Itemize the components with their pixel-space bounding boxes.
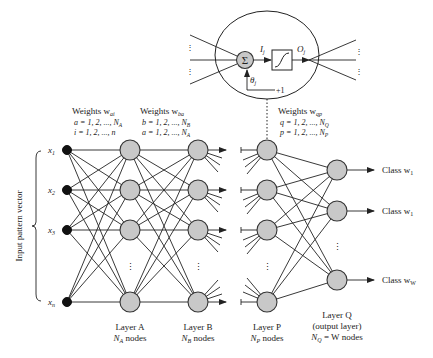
neuron-node [188, 180, 208, 200]
output-labels: Class w1 Class w1 Class wW [382, 165, 416, 286]
neuron-detail: ⋮ ⋮ Σ Ij Oj ⋮ ⋮ θj +1 [186, 11, 363, 141]
svg-text:a = 1, 2, ..., NA: a = 1, 2, ..., NA [74, 118, 123, 128]
output-label: Oj [297, 44, 306, 55]
ellipsis-icon: ⋮ [126, 262, 135, 272]
neuron-node [327, 201, 347, 221]
neuron-node [120, 292, 140, 312]
class-label: Class wW [382, 275, 416, 286]
neuron-node [257, 180, 277, 200]
input-brace [32, 151, 41, 301]
svg-text:Weights wai: Weights wai [72, 106, 115, 117]
svg-text:Layer Q: Layer Q [322, 310, 352, 320]
weights-label-ba: Weights wba b = 1, 2, ..., NB a = 1, 2, … [140, 106, 191, 138]
weights-label-qp: Weights wqp q = 1, 2, ..., NQ p = 1, 2, … [278, 106, 329, 138]
class-label: Class w1 [382, 206, 413, 217]
ellipsis-icon: ⋮ [263, 262, 272, 272]
neuron-node [188, 220, 208, 240]
ellipsis-icon: ⋮ [355, 47, 363, 56]
neuron-node [120, 180, 140, 200]
svg-text:NB nodes: NB nodes [181, 333, 215, 344]
layer-q-label: Layer Q (output layer) NQ = W nodes [310, 310, 363, 343]
svg-text:p = 1, 2, ..., NP: p = 1, 2, ..., NP [279, 128, 329, 138]
ellipsis-icon: ⋮ [355, 67, 363, 76]
input-label: x3 [47, 225, 55, 236]
input-node [63, 298, 72, 307]
net-input-label: Ij [259, 44, 265, 55]
layer-p-nodes: ⋮ [257, 140, 277, 312]
bias-value: +1 [276, 86, 285, 95]
neuron-node [257, 292, 277, 312]
edges-outputs [347, 170, 374, 280]
neuron-node [257, 220, 277, 240]
ellipsis-icon: ⋮ [194, 262, 203, 272]
neuron-node [188, 292, 208, 312]
neural-network-diagram: ⋮ ⋮ Σ Ij Oj ⋮ ⋮ θj +1 Weights wai a = 1,… [0, 0, 433, 358]
edges-a-to-b [130, 150, 198, 302]
input-layer: x1 x2 x3 xn Input pattern vector [14, 145, 72, 308]
svg-text:b = 1, 2, ..., NB: b = 1, 2, ..., NB [142, 118, 191, 128]
svg-text:Layer A: Layer A [115, 322, 145, 332]
input-label: xn [47, 297, 55, 308]
class-label: Class w1 [382, 165, 413, 176]
svg-text:q = 1, 2, ..., NQ: q = 1, 2, ..., NQ [280, 118, 329, 128]
neuron-node [188, 140, 208, 160]
input-vector-label: Input pattern vector [14, 191, 24, 262]
bias-label: θj [250, 75, 256, 86]
layer-a-label: Layer A NA nodes [113, 322, 147, 344]
input-node [63, 146, 72, 155]
layer-b-label: Layer B NB nodes [181, 322, 215, 344]
input-node [63, 186, 72, 195]
input-label: x2 [47, 185, 55, 196]
sum-symbol: Σ [242, 54, 248, 66]
layer-p-label: Layer P NP nodes [250, 322, 284, 344]
svg-text:i = 1, 2, ..., n: i = 1, 2, ..., n [74, 128, 116, 137]
neuron-node [327, 270, 347, 290]
svg-text:Weights wba: Weights wba [140, 106, 184, 117]
svg-text:Weights wqp: Weights wqp [278, 106, 322, 117]
svg-text:NP nodes: NP nodes [250, 333, 284, 344]
ellipsis-icon: ⋮ [186, 67, 194, 76]
svg-text:(output layer): (output layer) [312, 321, 361, 331]
neuron-node [327, 160, 347, 180]
input-node [63, 226, 72, 235]
svg-text:Layer B: Layer B [183, 322, 212, 332]
ellipsis-icon: ⋮ [333, 242, 342, 252]
neuron-node [120, 140, 140, 160]
svg-text:NQ = W nodes: NQ = W nodes [310, 332, 363, 343]
neuron-boundary [215, 11, 319, 99]
svg-text:Layer P: Layer P [253, 322, 281, 332]
ellipsis-icon: ⋮ [186, 43, 194, 52]
svg-text:a = 1, 2, ..., NA: a = 1, 2, ..., NA [142, 128, 191, 138]
neuron-node [257, 140, 277, 160]
weights-label-ai: Weights wai a = 1, 2, ..., NA i = 1, 2, … [72, 106, 123, 137]
neuron-node [120, 220, 140, 240]
input-label: x1 [47, 145, 55, 156]
svg-text:NA nodes: NA nodes [113, 333, 147, 344]
